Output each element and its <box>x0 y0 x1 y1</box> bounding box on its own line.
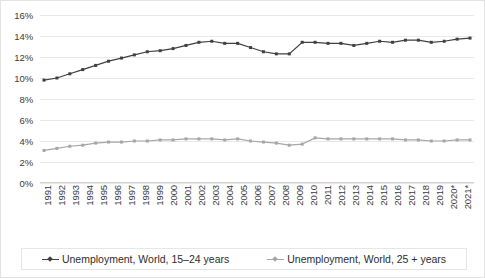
data-point-marker <box>288 144 291 147</box>
data-point-marker <box>469 37 472 40</box>
x-axis-tick-label: 2004 <box>224 185 235 206</box>
y-axis-tick-label: 6% <box>19 115 33 126</box>
data-point-marker <box>210 137 213 140</box>
data-point-marker <box>197 41 200 44</box>
legend-line-marker-icon <box>42 255 59 264</box>
data-point-marker <box>417 39 420 42</box>
data-point-marker <box>391 41 394 44</box>
data-point-marker <box>107 60 110 63</box>
x-axis-tick-label: 1991 <box>42 185 53 206</box>
data-point-marker <box>236 42 239 45</box>
data-point-marker <box>159 138 162 141</box>
data-point-marker <box>443 140 446 143</box>
data-point-marker <box>146 140 149 143</box>
x-axis-tick-label: 2014 <box>364 185 375 206</box>
x-axis-tick-label: 2005 <box>238 185 249 206</box>
x-axis-tick-label: 2021* <box>462 185 473 209</box>
x-axis-tick-label: 2012 <box>336 185 347 206</box>
x-axis-tick-label: 1992 <box>56 185 67 206</box>
legend-label: Unemployment, World, 15–24 years <box>62 253 229 265</box>
data-point-marker <box>81 68 84 71</box>
data-point-marker <box>262 50 265 53</box>
data-point-marker <box>378 137 381 140</box>
data-point-marker <box>352 44 355 47</box>
data-point-marker <box>146 50 149 53</box>
data-point-marker <box>391 137 394 140</box>
legend-label: Unemployment, World, 25 + years <box>287 253 446 265</box>
data-point-marker <box>81 144 84 147</box>
y-axis-tick-label: 4% <box>19 136 33 147</box>
x-axis: 1991199219931994199519961997199819992000… <box>40 185 474 243</box>
data-point-marker <box>68 145 71 148</box>
chart-legend: Unemployment, World, 15–24 yearsUnemploy… <box>21 248 467 270</box>
series-layer <box>40 15 474 183</box>
x-axis-tick-label: 2020* <box>448 185 459 209</box>
data-point-marker <box>301 41 304 44</box>
data-point-marker <box>275 142 278 145</box>
data-point-marker <box>133 53 136 56</box>
x-axis-tick-label: 1998 <box>140 185 151 206</box>
data-point-marker <box>197 137 200 140</box>
data-point-marker <box>301 143 304 146</box>
x-axis-tick-label: 2010 <box>308 185 319 206</box>
data-point-marker <box>133 140 136 143</box>
data-point-marker <box>314 136 317 139</box>
data-point-marker <box>223 42 226 45</box>
x-axis-tick-label: 2006 <box>252 185 263 206</box>
data-point-marker <box>185 137 188 140</box>
data-point-marker <box>365 137 368 140</box>
x-axis-tick-label: 2018 <box>420 185 431 206</box>
data-point-marker <box>339 42 342 45</box>
data-point-marker <box>172 138 175 141</box>
data-point-marker <box>314 41 317 44</box>
y-axis-tick-label: 10% <box>14 73 33 84</box>
y-axis-tick-label: 16% <box>14 10 33 21</box>
data-point-marker <box>159 49 162 52</box>
data-point-marker <box>404 39 407 42</box>
data-point-marker <box>94 142 97 145</box>
data-point-marker <box>443 40 446 43</box>
data-point-marker <box>94 64 97 67</box>
x-axis-tick-label: 2001 <box>182 185 193 206</box>
data-point-marker <box>352 137 355 140</box>
data-point-marker <box>68 72 71 75</box>
data-point-marker <box>236 137 239 140</box>
x-axis-tick-label: 2009 <box>294 185 305 206</box>
data-point-marker <box>262 141 265 144</box>
y-axis-tick-label: 2% <box>19 157 33 168</box>
data-point-marker <box>210 40 213 43</box>
x-axis-tick-label: 1997 <box>126 185 137 206</box>
data-point-marker <box>43 79 46 82</box>
data-point-marker <box>120 57 123 60</box>
x-axis-tick-label: 2016 <box>392 185 403 206</box>
y-axis-tick-label: 8% <box>19 94 33 105</box>
data-point-marker <box>404 138 407 141</box>
data-point-marker <box>365 42 368 45</box>
x-axis-tick-label: 1999 <box>154 185 165 206</box>
y-axis-tick-label: 12% <box>14 52 33 63</box>
data-point-marker <box>120 141 123 144</box>
data-point-marker <box>55 147 58 150</box>
data-point-marker <box>339 137 342 140</box>
y-axis-tick-label: 0% <box>19 178 33 189</box>
legend-entry-adult[interactable]: Unemployment, World, 25 + years <box>267 253 446 265</box>
data-point-marker <box>107 141 110 144</box>
series-line <box>44 38 470 80</box>
series-adult <box>43 136 472 152</box>
data-point-marker <box>172 47 175 50</box>
gridline <box>40 183 474 184</box>
legend-line-marker-icon <box>267 255 284 264</box>
y-axis: 0%2%4%6%8%10%12%14%16% <box>1 15 37 183</box>
x-axis-tick-label: 1995 <box>98 185 109 206</box>
data-point-marker <box>378 40 381 43</box>
data-point-marker <box>275 52 278 55</box>
x-axis-tick-label: 2013 <box>350 185 361 206</box>
series-youth <box>43 37 472 82</box>
legend-entry-youth[interactable]: Unemployment, World, 15–24 years <box>42 253 229 265</box>
x-axis-tick-label: 2011 <box>322 185 333 205</box>
data-point-marker <box>327 42 330 45</box>
data-point-marker <box>456 38 459 41</box>
x-axis-tick-label: 2017 <box>406 185 417 206</box>
x-axis-tick-label: 2000 <box>168 185 179 206</box>
data-point-marker <box>249 140 252 143</box>
